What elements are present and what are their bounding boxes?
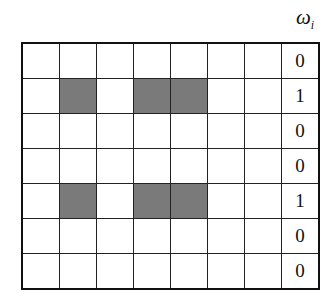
- grid-row: 0: [22, 43, 319, 79]
- shaded-cell: [171, 79, 208, 114]
- empty-cell: [134, 43, 171, 79]
- empty-cell: [97, 254, 134, 290]
- empty-cell: [208, 114, 245, 149]
- empty-cell: [60, 149, 97, 184]
- empty-cell: [22, 149, 60, 184]
- empty-cell: [171, 43, 208, 79]
- shaded-cell: [134, 79, 171, 114]
- empty-cell: [60, 254, 97, 290]
- empty-cell: [208, 254, 245, 290]
- omega-subscript: i: [311, 18, 314, 32]
- empty-cell: [97, 114, 134, 149]
- empty-cell: [245, 254, 282, 290]
- grid-row: 0: [22, 114, 319, 149]
- empty-cell: [97, 184, 134, 219]
- weight-cell: 1: [282, 184, 320, 219]
- empty-cell: [60, 219, 97, 254]
- empty-cell: [97, 149, 134, 184]
- empty-cell: [171, 149, 208, 184]
- empty-cell: [208, 79, 245, 114]
- empty-cell: [97, 79, 134, 114]
- shaded-cell: [60, 79, 97, 114]
- empty-cell: [134, 219, 171, 254]
- grid-row: 0: [22, 254, 319, 290]
- empty-cell: [134, 114, 171, 149]
- weight-cell: 1: [282, 79, 320, 114]
- omega-i-label: ωi: [290, 5, 320, 35]
- empty-cell: [22, 114, 60, 149]
- empty-cell: [208, 43, 245, 79]
- empty-cell: [208, 184, 245, 219]
- empty-cell: [171, 114, 208, 149]
- empty-cell: [22, 254, 60, 290]
- empty-cell: [97, 43, 134, 79]
- weight-cell: 0: [282, 219, 320, 254]
- empty-cell: [22, 43, 60, 79]
- empty-cell: [134, 254, 171, 290]
- empty-cell: [245, 184, 282, 219]
- empty-cell: [134, 149, 171, 184]
- empty-cell: [245, 219, 282, 254]
- empty-cell: [97, 219, 134, 254]
- weight-cell: 0: [282, 114, 320, 149]
- weight-cell: 0: [282, 149, 320, 184]
- grid-row: 0: [22, 219, 319, 254]
- shaded-cell: [171, 184, 208, 219]
- empty-cell: [245, 149, 282, 184]
- empty-cell: [171, 219, 208, 254]
- empty-cell: [245, 79, 282, 114]
- empty-cell: [22, 184, 60, 219]
- weight-cell: 0: [282, 254, 320, 290]
- empty-cell: [171, 254, 208, 290]
- empty-cell: [245, 114, 282, 149]
- empty-cell: [208, 219, 245, 254]
- grid-row: 0: [22, 149, 319, 184]
- empty-cell: [245, 43, 282, 79]
- empty-cell: [60, 114, 97, 149]
- grid-row: 1: [22, 184, 319, 219]
- shaded-cell: [134, 184, 171, 219]
- empty-cell: [60, 43, 97, 79]
- shaded-cell: [60, 184, 97, 219]
- empty-cell: [22, 79, 60, 114]
- omega-symbol: ω: [296, 5, 311, 29]
- empty-cell: [22, 219, 60, 254]
- pixel-grid: 0100100: [21, 42, 320, 290]
- grid-row: 1: [22, 79, 319, 114]
- empty-cell: [208, 149, 245, 184]
- weight-cell: 0: [282, 43, 320, 79]
